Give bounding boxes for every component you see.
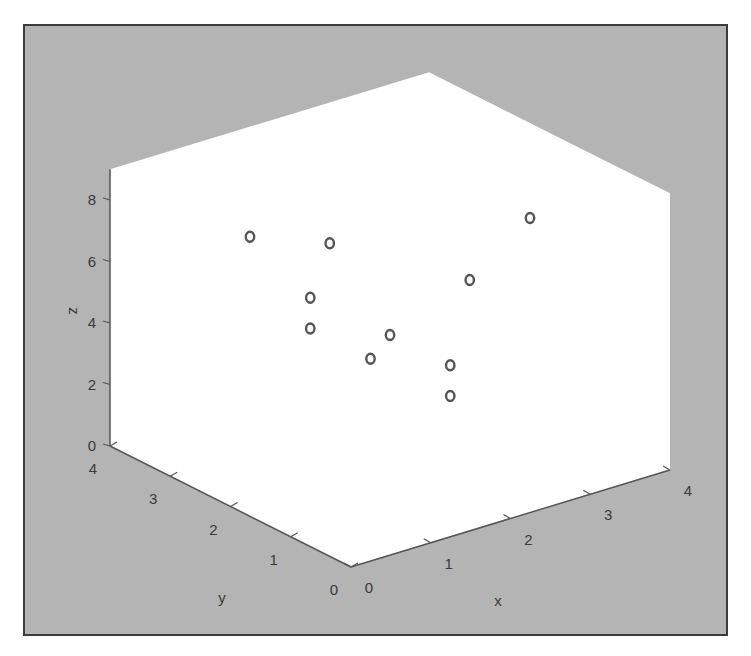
z-tick-label: 8 — [88, 191, 96, 208]
y-axis-label: y — [218, 589, 226, 606]
x-tick-label: 3 — [604, 506, 612, 523]
y-tick-label: 1 — [270, 551, 278, 568]
x-axis-label: x — [494, 592, 502, 609]
z-tick-label: 2 — [88, 376, 96, 393]
y-tick-label: 0 — [330, 581, 338, 598]
y-tick-label: 4 — [89, 460, 97, 477]
x-tick-label: 0 — [365, 579, 373, 596]
z-tick-label: 0 — [88, 437, 96, 454]
z-axis-label: z — [66, 307, 83, 315]
x-tick-label: 2 — [524, 531, 532, 548]
x-tick-label: 4 — [684, 482, 692, 499]
figure: 012340123402468 y x z — [0, 0, 751, 656]
y-tick-label: 2 — [209, 521, 217, 538]
z-tick-label: 4 — [88, 314, 96, 331]
x-tick-label: 1 — [445, 555, 453, 572]
y-tick-label: 3 — [149, 490, 157, 507]
z-tick-label: 6 — [88, 253, 96, 270]
